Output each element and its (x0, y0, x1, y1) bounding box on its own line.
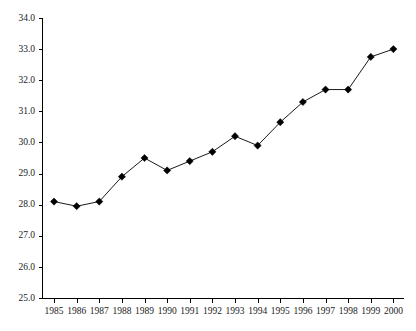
x-tick-label: 1992 (203, 306, 222, 316)
x-tick-label: 1988 (112, 306, 131, 316)
x-tick-label: 1993 (226, 306, 245, 316)
y-tick-label: 25.0 (18, 293, 35, 303)
x-tick-label: 1991 (180, 306, 199, 316)
line-chart: 25.026.027.028.029.030.031.032.033.034.0… (0, 0, 416, 331)
x-tick-label: 1990 (158, 306, 177, 316)
x-tick-label: 1994 (248, 306, 267, 316)
y-tick-label: 29.0 (18, 168, 35, 178)
x-tick-label: 1989 (135, 306, 154, 316)
y-tick-label: 34.0 (18, 13, 35, 23)
x-tick-label: 1987 (90, 306, 109, 316)
y-tick-label: 27.0 (18, 230, 35, 240)
x-tick-label: 1999 (361, 306, 380, 316)
x-tick-label: 1998 (339, 306, 358, 316)
chart-background (0, 0, 416, 331)
x-tick-label: 1996 (293, 306, 312, 316)
y-tick-label: 28.0 (18, 199, 35, 209)
x-tick-label: 1986 (67, 306, 86, 316)
y-tick-label: 30.0 (18, 137, 35, 147)
chart-canvas: 25.026.027.028.029.030.031.032.033.034.0… (0, 0, 416, 331)
x-tick-label: 1995 (271, 306, 290, 316)
x-tick-label: 1997 (316, 306, 335, 316)
y-tick-label: 33.0 (18, 44, 35, 54)
x-tick-label: 2000 (384, 306, 403, 316)
x-tick-label: 1985 (45, 306, 64, 316)
y-tick-label: 31.0 (18, 106, 35, 116)
y-tick-label: 32.0 (18, 75, 35, 85)
y-tick-label: 26.0 (18, 262, 35, 272)
